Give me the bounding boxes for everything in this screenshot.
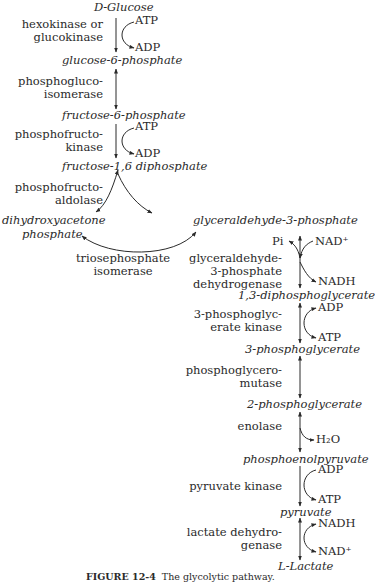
enzyme-label-line: erate kinase xyxy=(194,321,282,334)
cofactor-pgk-adp: ADP xyxy=(318,302,343,314)
enzyme-label-line: isomerase xyxy=(18,88,103,101)
enzyme-aldolase: phosphofructo- aldolase xyxy=(15,181,103,207)
figure-caption-text: The glycolytic pathway. xyxy=(162,571,275,582)
metabolite-pep: phosphoenolpyruvate xyxy=(243,454,369,466)
metabolite-f16dp: fructose-1,6 diphosphate xyxy=(62,161,207,173)
lactate-name: -Lactate xyxy=(286,559,334,573)
glucose-prefix: D xyxy=(94,0,103,14)
enzyme-pyruvate-kinase: pyruvate kinase xyxy=(189,480,282,493)
cofactor-hk-atp: ATP xyxy=(135,15,158,27)
enzyme-label-line: pyruvate kinase xyxy=(189,480,282,493)
arrow-gapdh-nadh xyxy=(300,262,316,282)
metabolite-lactate: L-Lactate xyxy=(278,561,333,573)
enzyme-label-line: aldolase xyxy=(15,194,103,207)
enzyme-lactate-dehydrogenase: lactate dehydro- genase xyxy=(187,526,282,552)
cofactor-ldh-nadh: NADH xyxy=(318,518,356,530)
enzyme-label-line: glucokinase xyxy=(22,31,103,44)
cofactor-pk-atp: ATP xyxy=(318,494,341,506)
cofactor-pk-adp: ADP xyxy=(318,464,343,476)
arrow-hk-cofactor xyxy=(122,22,134,48)
cofactor-pgk-atp: ATP xyxy=(318,332,341,344)
arrow-gapdh-pi xyxy=(289,241,300,258)
enzyme-phosphoglucoisomerase: phosphogluco- isomerase xyxy=(18,75,103,101)
metabolite-g3p: glyceraldehyde-3-phosphate xyxy=(193,215,358,227)
metabolite-f6p: fructose-6-phosphate xyxy=(62,110,186,122)
enzyme-triosephosphate-isomerase: triosephosphate isomerase xyxy=(76,252,170,278)
arrow-enolase-water xyxy=(300,428,314,440)
metabolite-g6p: glucose-6-phosphate xyxy=(62,55,182,67)
arrow-pk-cofactor xyxy=(304,470,316,500)
arrow-pfk-cofactor xyxy=(122,128,134,154)
metabolite-bpg: 1,3-diphosphoglycerate xyxy=(238,290,375,302)
arrow-pgk-cofactor xyxy=(304,308,316,338)
enzyme-label-line: dehydrogenase xyxy=(189,278,282,291)
figure-caption: FIGURE 12-4 The glycolytic pathway. xyxy=(86,572,275,582)
enzyme-phosphofructokinase: phosphofructo- kinase xyxy=(15,128,103,154)
metabolite-glucose: D-Glucose xyxy=(94,2,153,14)
metabolite-dhap-line2: phosphate xyxy=(22,229,83,241)
enzyme-enolase: enolase xyxy=(238,420,282,433)
cofactor-pfk-adp: ADP xyxy=(135,148,160,160)
glucose-name: -Glucose xyxy=(103,0,153,14)
enzyme-label-line: enolase xyxy=(238,420,282,433)
cofactor-pfk-atp: ATP xyxy=(135,121,158,133)
metabolite-3pg: 3-phosphoglycerate xyxy=(245,344,360,356)
metabolite-2pg: 2-phosphoglycerate xyxy=(247,399,362,411)
cofactor-hk-adp: ADP xyxy=(135,42,160,54)
enzyme-phosphoglyceromutase: phosphoglycero- mutase xyxy=(186,364,282,390)
enzyme-gapdh: glyceraldehyde- 3-phosphate dehydrogenas… xyxy=(189,252,282,291)
enzyme-label-line: kinase xyxy=(15,141,103,154)
cofactor-gapdh-nad: NAD⁺ xyxy=(315,236,349,248)
lactate-prefix: L xyxy=(278,559,286,573)
cofactor-gapdh-nadh: NADH xyxy=(318,276,356,288)
enzyme-label-line: genase xyxy=(187,539,282,552)
cofactor-enolase-water: H₂O xyxy=(316,434,340,446)
arrow-f16dp-g3p xyxy=(118,174,152,213)
metabolite-dhap-line1: dihydroxyacetone xyxy=(2,215,106,227)
arrow-gapdh-nad xyxy=(300,241,313,258)
enzyme-phosphoglycerate-kinase: 3-phosphoglyc- erate kinase xyxy=(194,308,282,334)
enzyme-label-line: isomerase xyxy=(76,265,170,278)
cofactor-ldh-nad: NAD⁺ xyxy=(318,546,352,558)
arrow-dhap-g3p xyxy=(82,232,196,252)
enzyme-label-line: mutase xyxy=(186,377,282,390)
cofactor-gapdh-pi: Pi xyxy=(272,236,283,248)
enzyme-hexokinase: hexokinase or glucokinase xyxy=(22,18,103,44)
arrow-ldh-cofactor xyxy=(304,524,316,552)
figure-label: FIGURE 12-4 xyxy=(86,571,156,582)
